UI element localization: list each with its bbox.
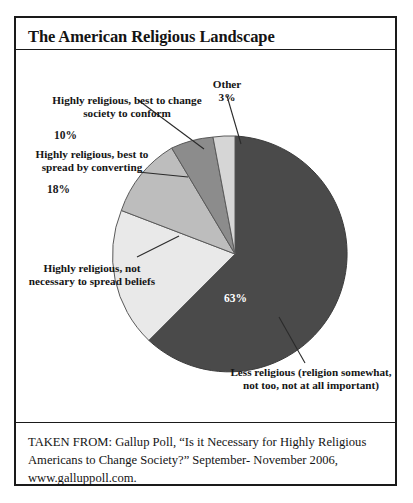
figure-frame: The American Religious Landscape Other xyxy=(14,16,397,486)
caption-divider xyxy=(16,422,395,423)
slice-value-conform: 6% xyxy=(82,84,99,96)
callout-label-conform: Highly religious, best to change society… xyxy=(38,94,216,120)
slice-value-not-necessary: 18% xyxy=(47,183,70,195)
callout-label-less-religious: Less religious (religion somewhat, not t… xyxy=(228,366,394,392)
callout-label-not-necessary: Highly religious, not necessary to sprea… xyxy=(24,262,160,288)
slice-value-converting: 10% xyxy=(54,129,77,141)
figure-title: The American Religious Landscape xyxy=(28,27,275,47)
pie-chart: Other 3% Highly religious, best to chang… xyxy=(16,50,395,422)
callout-label-other-title: Other xyxy=(192,78,262,91)
slice-value-less-religious: 63% xyxy=(224,292,247,304)
source-caption: TAKEN FROM: Gallup Poll, “Is it Necessar… xyxy=(28,434,383,488)
callout-label-converting: Highly religious, best to spread by conv… xyxy=(22,148,162,174)
